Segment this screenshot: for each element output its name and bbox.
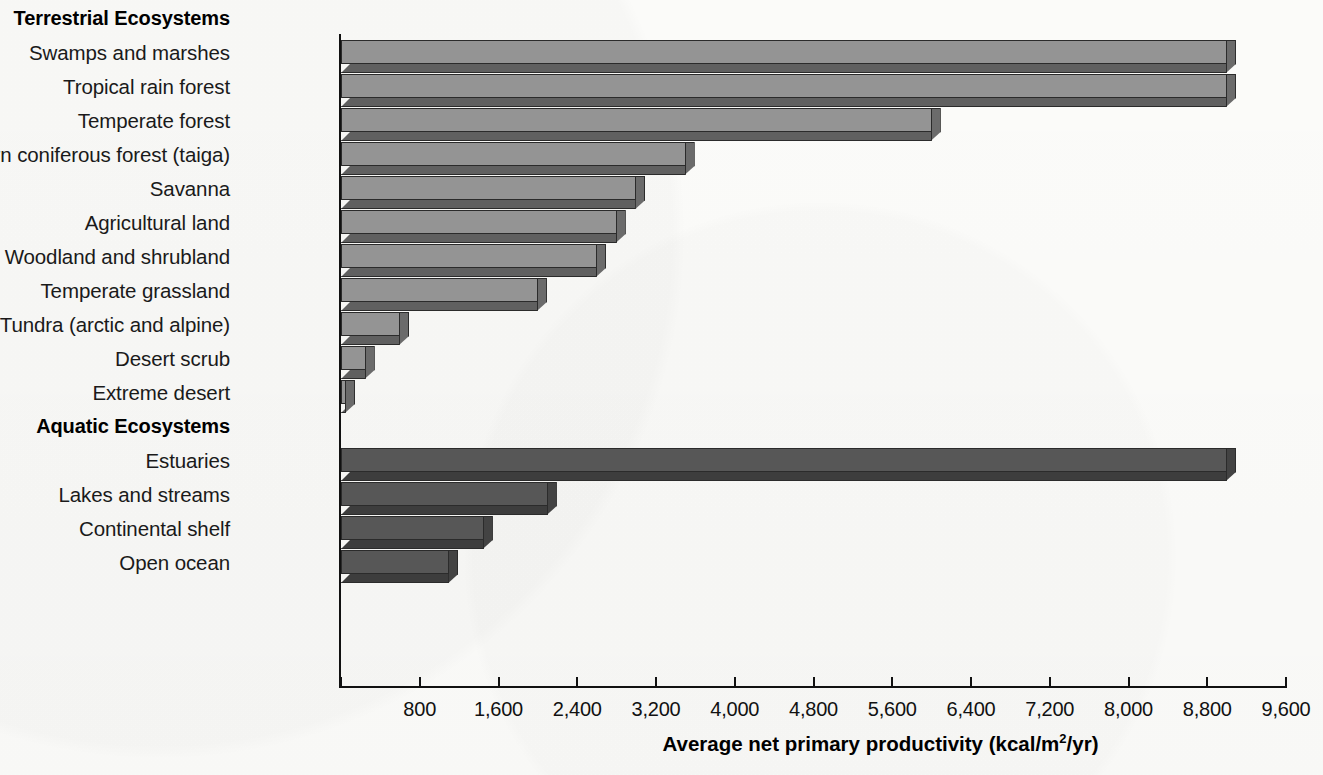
- bar-side: [547, 482, 557, 515]
- bar-shadow: [341, 200, 636, 209]
- x-axis-tick: [419, 677, 421, 686]
- bar: [341, 176, 636, 200]
- category-label: Lakes and streams: [59, 485, 231, 505]
- group-heading: Terrestrial Ecosystems: [14, 8, 230, 28]
- bar-side: [1226, 40, 1236, 73]
- bar: [341, 482, 548, 506]
- x-axis-tick-label: 4,800: [789, 698, 838, 721]
- x-axis-tick-label: 5,600: [868, 698, 917, 721]
- x-axis-tick: [655, 677, 657, 686]
- bar: [341, 346, 366, 370]
- bar-face: [341, 176, 636, 200]
- x-axis-tick-label: 1,600: [474, 698, 523, 721]
- x-axis-title-superscript: 2: [1059, 731, 1066, 746]
- bar: [341, 142, 686, 166]
- x-axis-title-tail: /yr): [1067, 732, 1099, 755]
- bar-side: [1226, 74, 1236, 107]
- x-axis-tick: [813, 677, 815, 686]
- bar-shadow: [341, 64, 1227, 73]
- bar-shadow: [341, 98, 1227, 107]
- x-axis-tick: [498, 677, 500, 686]
- bar-face: [341, 380, 346, 404]
- category-label: Northern coniferous forest (taiga): [0, 145, 230, 165]
- bar: [341, 448, 1227, 472]
- category-label: Continental shelf: [79, 519, 230, 539]
- bar-face: [341, 278, 538, 302]
- x-axis-title-main: Average net primary productivity (kcal/m: [663, 732, 1060, 755]
- bar-chart: 8001,6002,4003,2004,0004,8005,6006,4007,…: [0, 0, 1323, 775]
- x-axis-tick: [576, 677, 578, 686]
- bar-shadow: [341, 370, 366, 379]
- bar-face: [341, 550, 449, 574]
- bar-shadow: [341, 166, 686, 175]
- x-axis-tick: [1206, 677, 1208, 686]
- bar-side: [448, 550, 458, 583]
- bar-face: [341, 108, 932, 132]
- bar-shadow: [341, 132, 932, 141]
- bar: [341, 278, 538, 302]
- bar-shadow: [341, 268, 597, 277]
- bar-face: [341, 516, 484, 540]
- x-axis-tick-label: 8,800: [1183, 698, 1232, 721]
- x-axis-tick: [734, 677, 736, 686]
- x-axis-title: Average net primary productivity (kcal/m…: [663, 732, 1099, 756]
- bar-side: [931, 108, 941, 141]
- bar-shadow: [341, 540, 484, 549]
- x-axis-tick: [1285, 677, 1287, 686]
- category-label: Temperate grassland: [40, 281, 230, 301]
- bar-side: [345, 380, 355, 413]
- group-heading: Aquatic Ecosystems: [36, 416, 230, 436]
- bar-face: [341, 448, 1227, 472]
- bar: [341, 40, 1227, 64]
- bar-face: [341, 312, 400, 336]
- category-label: Open ocean: [119, 553, 230, 573]
- category-label: Tropical rain forest: [63, 77, 230, 97]
- bar-face: [341, 346, 366, 370]
- bar-shadow: [341, 234, 617, 243]
- category-label: Agricultural land: [85, 213, 230, 233]
- bar-face: [341, 40, 1227, 64]
- x-axis-tick-label: 7,200: [1025, 698, 1074, 721]
- bar-shadow: [341, 506, 548, 515]
- y-axis-line: [339, 34, 341, 686]
- bar-side: [399, 312, 409, 345]
- x-axis-tick-label: 2,400: [553, 698, 602, 721]
- bar-face: [341, 244, 597, 268]
- x-axis-tick-label: 6,400: [946, 698, 995, 721]
- bar-shadow: [341, 336, 400, 345]
- bar-side: [616, 210, 626, 243]
- bar: [341, 108, 932, 132]
- bar: [341, 210, 617, 234]
- category-label: Tundra (arctic and alpine): [0, 315, 230, 335]
- bar-side: [596, 244, 606, 277]
- x-axis-tick: [1049, 677, 1051, 686]
- x-axis-tick-label: 4,000: [710, 698, 759, 721]
- x-axis-tick-label: 8,000: [1104, 698, 1153, 721]
- category-label: Savanna: [150, 179, 230, 199]
- category-label: Swamps and marshes: [29, 43, 230, 63]
- bar: [341, 74, 1227, 98]
- x-axis-tick: [340, 677, 342, 686]
- bar: [341, 516, 484, 540]
- category-label: Desert scrub: [115, 349, 230, 369]
- x-axis-line: [339, 686, 1287, 688]
- bar-face: [341, 74, 1227, 98]
- x-axis-tick-label: 9,600: [1261, 698, 1310, 721]
- x-axis-tick-label: 800: [403, 698, 436, 721]
- bar-side: [685, 142, 695, 175]
- bar: [341, 312, 400, 336]
- category-label: Temperate forest: [78, 111, 230, 131]
- category-label: Estuaries: [145, 451, 230, 471]
- bar: [341, 244, 597, 268]
- bar: [341, 380, 346, 404]
- x-axis-tick-label: 3,200: [631, 698, 680, 721]
- bar-side: [1226, 448, 1236, 481]
- bar: [341, 550, 449, 574]
- bar-side: [365, 346, 375, 379]
- bar-face: [341, 482, 548, 506]
- x-axis-tick: [1128, 677, 1130, 686]
- bar-face: [341, 210, 617, 234]
- bar-shadow: [341, 472, 1227, 481]
- category-label: Woodland and shrubland: [5, 247, 230, 267]
- bar-side: [537, 278, 547, 311]
